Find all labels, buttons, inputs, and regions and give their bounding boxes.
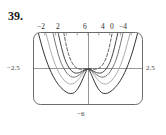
curve-4 xyxy=(58,33,118,73)
top-tick-label-4: 4 xyxy=(101,23,105,31)
curve-1 xyxy=(38,33,137,94)
top-tick-label-5: 0 xyxy=(110,23,114,31)
bottom-axis-label: −6 xyxy=(77,110,84,118)
top-tick-label-2: 2 xyxy=(56,23,60,31)
exercise-number: 39. xyxy=(8,10,23,22)
top-tick-label-1: −2 xyxy=(37,23,45,31)
curve-group xyxy=(38,33,137,94)
left-axis-label: −2.5 xyxy=(7,64,20,72)
curve-2 xyxy=(46,33,130,84)
curve-5 xyxy=(64,33,112,69)
figure-container: 39. −2 2 6 4 0 −4 −2.5 2.5 −6 xyxy=(0,0,166,135)
right-axis-label: 2.5 xyxy=(146,64,155,72)
top-tick-label-3: 6 xyxy=(83,23,87,31)
top-tick-label-6: −4 xyxy=(119,23,127,31)
